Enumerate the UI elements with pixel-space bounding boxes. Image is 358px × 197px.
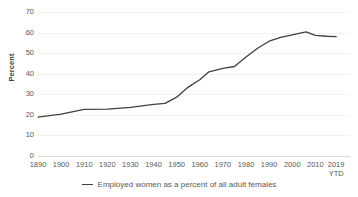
line-chart: Percent 706050403020100 1890190019101920… [0,0,358,197]
x-axis-tick-label: 2019YTD [316,160,356,179]
series-line-employed-women [38,12,350,156]
plot-area: 1890190019101920193019401950196019701980… [38,12,350,156]
y-axis-tick-label: 60 [0,29,34,37]
legend-label: Employed women as a percent of all adult… [98,180,277,189]
y-axis-tick-label: 50 [0,49,34,57]
legend-line-swatch-icon [82,184,93,185]
y-axis-tick-label: 10 [0,132,34,140]
y-axis-tick-label: 20 [0,111,34,119]
y-axis-tick-label: 70 [0,8,34,16]
y-axis-tick-label: 40 [0,70,34,78]
chart-legend: Employed women as a percent of all adult… [0,180,358,189]
y-axis-tick-label: 0 [0,152,34,160]
gridline [38,156,350,157]
y-axis-tick-label: 30 [0,91,34,99]
